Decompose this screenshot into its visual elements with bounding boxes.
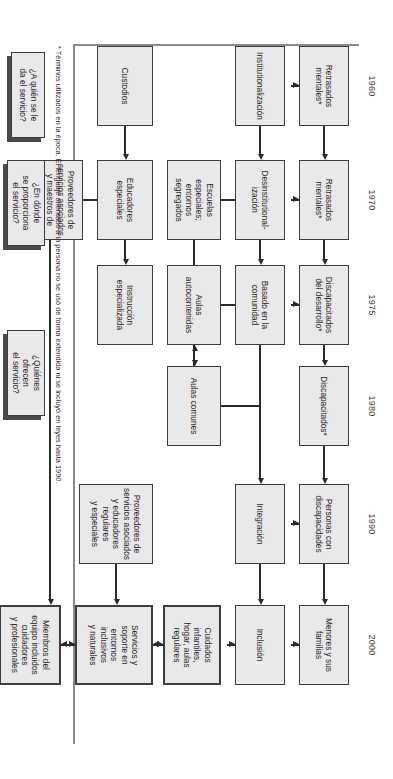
arrowhead-cuidados-servicios-up (157, 641, 163, 647)
connector-riser-aulas-comunes (221, 405, 260, 406)
node-menores-y-sus-familias: Menores y susfamilias (299, 605, 349, 685)
node-escuelas-especiales-entornos-segregados: Escuelas especiales;entornossegregados (167, 160, 221, 240)
node-aulas-autocontenidas: Aulasautocontenidas (167, 265, 221, 345)
arrowhead-proveedores-miembros (114, 599, 120, 605)
connector-r3-a (193, 240, 194, 265)
arrowhead-r2-0 (258, 154, 264, 160)
year-label-1960: 1960 (367, 75, 377, 96)
connector-r1-2 (323, 345, 324, 360)
question-card-q-who-served[interactable]: ¿A quién se leda el servicio? (11, 52, 45, 138)
arrowhead-r1-2 (322, 360, 328, 366)
question-card-q-where[interactable]: ¿En dóndese proporcionael servicio? (7, 160, 45, 246)
year-label-1980: 1980 (367, 395, 377, 416)
node-retrasados-mentales-1970: Retrasadosmentales* (299, 160, 349, 240)
connector-r1-3 (323, 446, 324, 478)
arrowhead-up-r2-r1-2 (293, 520, 299, 526)
arrowhead-r1-1 (322, 259, 328, 265)
node-integracion: Integración (235, 484, 285, 564)
connector-r2-3 (259, 564, 260, 599)
arrowhead-r2-2 (258, 478, 264, 484)
arrowhead-r4-1 (123, 259, 129, 265)
node-custodios: Custodios (97, 46, 153, 126)
arrowhead-up-r2-r1-1 (293, 301, 299, 307)
node-discapacitados: Discapacitados* (299, 366, 349, 446)
arrowhead-r3-b-right (192, 360, 198, 366)
year-label-1970: 1970 (367, 189, 377, 210)
year-label-1975: 1975 (367, 294, 377, 315)
node-educadores-especiales: Educadoresespeciales (97, 160, 153, 240)
node-discapacitados-del-desarrollo: Discapacitadosdel desarrollo* (299, 265, 349, 345)
node-personas-con-discapacidades: Personas condiscapacidades (299, 484, 349, 564)
connector-proveedores-miembros (115, 564, 116, 599)
arrowhead-r4-0 (123, 154, 129, 160)
connector-r2-0 (259, 126, 260, 154)
connector-riser-r3-0 (221, 199, 235, 200)
node-cuidados-infantiles-hogar-aulas-regulares: Cuidados infantiles,hogar, aulasregulare… (163, 605, 221, 685)
connector-r2-1 (259, 240, 260, 259)
node-retrasados-mentales-1960: Retrasadosmentales* (299, 46, 349, 126)
arrowhead-up-r2-r1-3 (293, 641, 299, 647)
node-instruccion-especializada: Instrucciónespecializada (97, 265, 153, 345)
year-label-1990: 1990 (367, 513, 377, 534)
arrowhead-r2-1 (258, 259, 264, 265)
connector-educadores-proveedores (83, 199, 97, 200)
node-proveedores-servicios-educadores: Proveedores deservicios asociadosy educa… (79, 484, 153, 564)
node-miembros-del-equipo-cuidadores-profesionales: Miembros delequipo incluidoscuidadoresy … (0, 605, 61, 685)
arrowhead-r1-4 (322, 599, 328, 605)
year-label-2000: 2000 (367, 634, 377, 655)
arrowhead-r3-b-left (192, 345, 198, 351)
connector-proveedores-long-run (49, 240, 50, 599)
node-inclusion: Inclusión (235, 605, 285, 685)
arrowhead-up-r2-r1-0 (293, 196, 299, 202)
connector-riser-r3-1 (221, 304, 235, 305)
arrowhead-r2-3 (258, 599, 264, 605)
arrowhead-r1-3 (322, 478, 328, 484)
node-aulas-comunes: Aulas comunes (167, 366, 221, 446)
connector-r1-4 (323, 564, 324, 599)
figure-footnote: * Términos utilizados en la época. El le… (53, 46, 63, 746)
connector-r1-1 (323, 240, 324, 259)
node-institucionalizacion: Institutionalización (235, 46, 285, 126)
connector-r2-2 (259, 345, 260, 478)
arrowhead-up-r2-r1-base (293, 82, 299, 88)
node-desinstitucionalizacion: Desinstitutional-ización (235, 160, 285, 240)
arrowhead-servicios-miembros-up (69, 641, 75, 647)
diagram-canvas: 196019701975198019902000Retrasadosmental… (0, 0, 393, 779)
connector-r1-0 (323, 126, 324, 154)
node-servicios-y-soporte-entornos-inclusivos: Servicios ysoporte enentornos inclusivos… (75, 605, 153, 685)
node-basado-en-la-comunidad: Basado en lacomunidad (235, 265, 285, 345)
connector-r4-1 (124, 240, 125, 259)
question-card-q-who-provides[interactable]: ¿Quiénesofrecenel servicio? (7, 330, 45, 416)
arrowhead-r1-0 (322, 154, 328, 160)
connector-r4-0 (124, 126, 125, 154)
arrowhead-inclusion-to-cuidados (229, 641, 235, 647)
